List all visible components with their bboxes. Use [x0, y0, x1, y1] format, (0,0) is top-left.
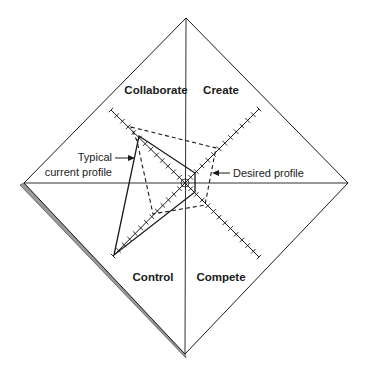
- typical-profile-label-line2: current profile: [45, 166, 112, 178]
- quadrant-label-compete: Compete: [196, 271, 245, 283]
- competing-values-diagram: CollaborateCreateControlCompete Typical …: [0, 0, 367, 367]
- quadrant-label-control: Control: [133, 271, 174, 283]
- quadrant-label-collaborate: Collaborate: [124, 84, 187, 96]
- typical-profile-label-line1: Typical: [78, 151, 112, 163]
- desired-profile-label: Desired profile: [233, 167, 304, 179]
- quadrant-label-create: Create: [203, 84, 239, 96]
